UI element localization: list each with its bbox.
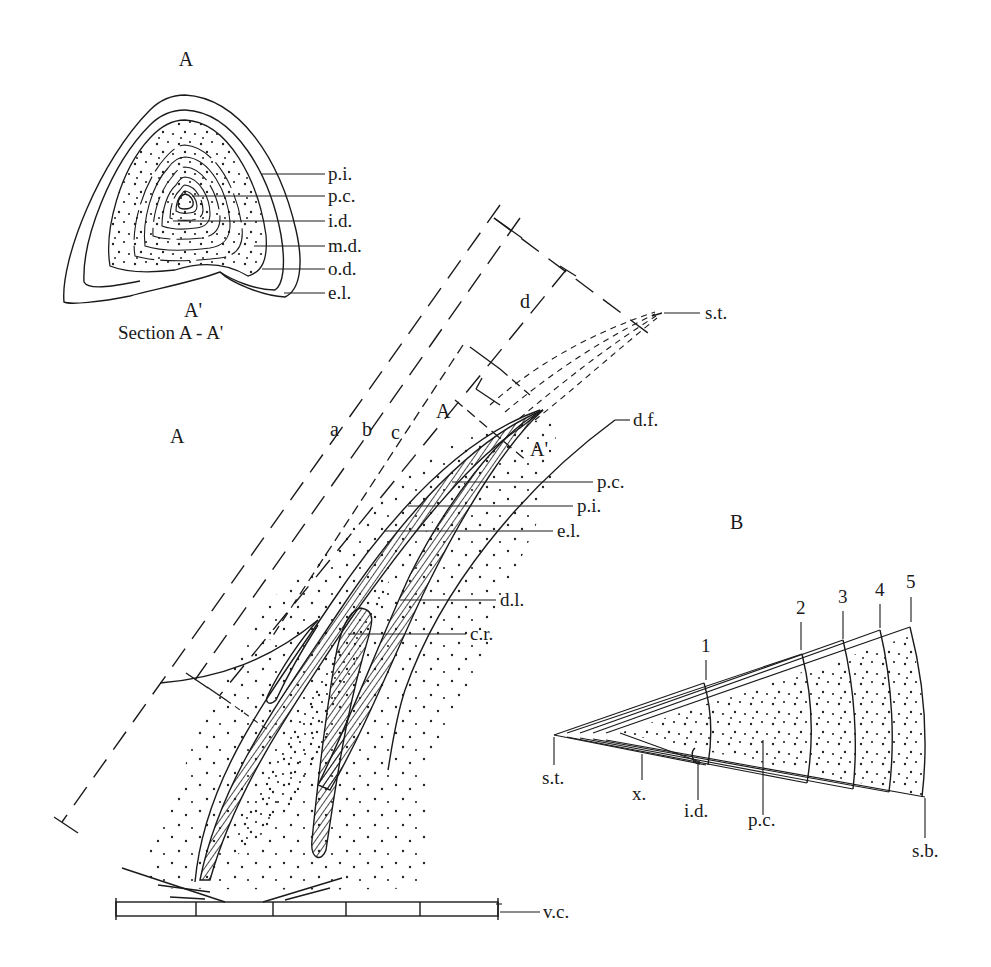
label-df: d.f. [633,409,658,430]
figure-a-title: A [170,425,185,447]
section-a-a-figure: A p.i. p.c. i.d. m.d. [64,48,362,343]
label-cr: c.r. [470,623,493,644]
wedge-label-st: s.t. [542,767,564,788]
zone-number-2: 2 [796,597,806,618]
section-label-md: m.d. [328,235,362,256]
dimension-label-b: b [362,418,372,440]
label-el: e.l. [557,520,580,541]
wedge-label-id: i.d. [684,800,708,821]
section-label-od: o.d. [328,258,357,279]
section-label-pc: p.c. [328,185,355,206]
dimension-label-d: d [520,290,530,312]
section-top-label: A [179,48,194,70]
section-mark-a: A [436,400,451,422]
dimension-label-a: a [330,418,339,440]
zone-number-5: 5 [906,571,916,592]
diagram-canvas: A p.i. p.c. i.d. m.d. [0,0,991,967]
substrate-bar [116,898,498,920]
zone-number-3: 3 [838,586,848,607]
zone-number-1: 1 [701,635,711,656]
section-label-id: i.d. [328,210,352,231]
label-pi: p.i. [577,495,601,516]
wedge-label-pc: p.c. [748,809,775,830]
dimension-label-c: c [391,421,400,443]
wedge-stipple-fill [620,636,925,796]
figure-b: B [542,511,938,861]
wedge-label-sb: s.b. [912,840,938,861]
figure-a: A d a b c [54,205,727,922]
section-mark-a-prime: A' [530,438,548,460]
label-pc: p.c. [597,471,624,492]
section-bottom-label: A' [184,299,202,321]
section-caption: Section A - A' [118,322,223,343]
label-st: s.t. [705,302,727,323]
section-label-el: e.l. [328,282,351,303]
wedge-label-x: x. [632,783,646,804]
section-label-pi: p.i. [328,163,352,184]
zone-number-4: 4 [875,579,885,600]
label-dl: d.l. [500,589,524,610]
figure-b-title: B [730,511,743,533]
projected-tip-curves [490,312,657,420]
label-vc: v.c. [543,901,569,922]
